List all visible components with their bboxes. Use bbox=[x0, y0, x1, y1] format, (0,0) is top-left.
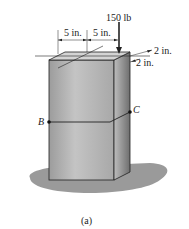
dim-depth-label-1: 2 in. bbox=[154, 45, 172, 56]
dim-depth-label-2: 2 in. bbox=[136, 57, 154, 68]
dim-right-label: 5 in. bbox=[93, 27, 111, 38]
point-b-label: B bbox=[38, 116, 44, 127]
load-label: 150 lb bbox=[106, 12, 131, 23]
block-front-face bbox=[49, 60, 114, 180]
dim-arrow bbox=[114, 39, 118, 41]
dim-arrow bbox=[87, 39, 91, 41]
dim-arrow bbox=[83, 39, 87, 41]
point-c-marker bbox=[128, 110, 132, 114]
point-c-label: C bbox=[133, 104, 140, 115]
figure-caption: (a) bbox=[81, 215, 92, 227]
dim-left-label: 5 in. bbox=[64, 27, 82, 38]
dim-arrow bbox=[147, 50, 152, 53]
point-b-marker bbox=[47, 120, 51, 124]
dim-arrow bbox=[58, 39, 62, 41]
block-diagram: 150 lb 5 in. 5 in. 2 in. 2 in. B C (a) bbox=[0, 0, 189, 229]
